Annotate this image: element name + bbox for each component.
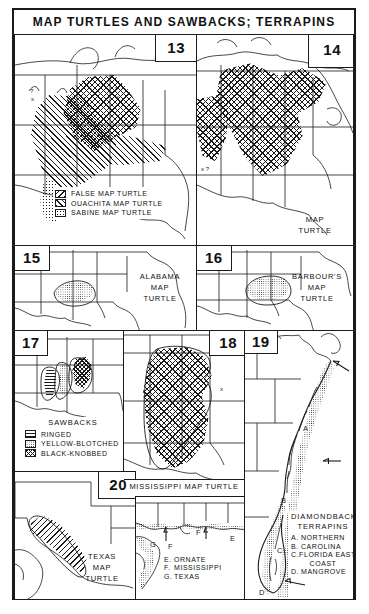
panel-13[interactable]: x x ? ? 13 FALSE MAP TURTLE OUACHITA MAP… xyxy=(14,34,197,246)
svg-text:x: x xyxy=(31,96,34,102)
panel-17[interactable]: 17 SAWBACKS RINGED YELLOW-BLOTCHED BLACK… xyxy=(14,330,124,472)
panel-19[interactable]: A B C D 19 DIAMONDBACK TERRAPINS A. NORT… xyxy=(244,330,354,600)
caption-line: MAP xyxy=(287,215,343,226)
panel-15-number: 15 xyxy=(23,249,41,266)
swatch-ouachita-map-turtle xyxy=(55,199,66,207)
caption-line: TEXAS xyxy=(75,552,129,563)
legend-key: G. xyxy=(164,573,174,580)
legend-label: COAST xyxy=(310,560,337,567)
swatch-sabine-map-turtle xyxy=(55,209,66,217)
marker-e: E xyxy=(230,534,235,543)
legend-key: D. xyxy=(291,568,301,575)
legend-item: G. TEXAS xyxy=(164,573,240,580)
gulf-coast-legend: E. ORNATE F. MISSISSIPPI G. TEXAS xyxy=(162,553,242,582)
svg-text:?: ? xyxy=(30,88,34,94)
legend-key: E. xyxy=(164,556,174,563)
panel-20[interactable]: 20 TEXAS MAP TURTLE xyxy=(14,471,136,600)
panel-17-number: 17 xyxy=(22,334,40,351)
swatch-false-map-turtle xyxy=(55,190,66,198)
legend-label: SABINE MAP TURTLE xyxy=(71,209,152,216)
legend-item: BLACK-KNOBBED xyxy=(25,449,121,457)
caption-line: TURTLE xyxy=(285,294,349,305)
marker-c: C xyxy=(277,546,283,555)
legend-item: C. FLORIDA EAST xyxy=(291,551,354,558)
legend-label: MANGROVE xyxy=(301,568,346,575)
plate-title-bar: MAP TURTLES AND SAWBACKS; TERRAPINS xyxy=(14,10,354,36)
swatch-ringed xyxy=(25,430,36,438)
caption-line: MAP xyxy=(75,563,129,574)
caption-line: MAP xyxy=(130,283,190,294)
marker-g: G xyxy=(150,540,156,549)
caption-line: BARBOUR'S xyxy=(285,272,349,283)
legend-heading-line: DIAMONDBACK xyxy=(291,512,354,521)
legend-item: YELLOW-BLOTCHED xyxy=(25,440,121,448)
legend-label: ORNATE xyxy=(174,556,206,563)
legend-label: TEXAS xyxy=(174,573,200,580)
panel-16[interactable]: 16 BARBOUR'S MAP TURTLE xyxy=(196,245,354,331)
legend-item: E. ORNATE xyxy=(164,556,240,563)
swatch-yellow-blotched xyxy=(25,440,36,448)
legend-item: D. MANGROVE xyxy=(291,568,354,575)
marker-b: B xyxy=(281,496,286,505)
legend-item: OUACHITA MAP TURTLE xyxy=(55,199,163,207)
gulf-coast-map: G F F E xyxy=(136,497,245,600)
caption-line: TURTLE xyxy=(130,294,190,305)
plate-frame: MAP TURTLES AND SAWBACKS; TERRAPINS xyxy=(12,8,356,600)
caption-line: ALABAMA xyxy=(130,272,190,283)
legend-label: FLORIDA EAST xyxy=(299,551,354,558)
panel-19-number: 19 xyxy=(252,333,270,350)
legend-heading: SAWBACKS xyxy=(25,418,121,427)
legend-label: YELLOW-BLOTCHED xyxy=(41,440,119,447)
legend-item: F. MISSISSIPPI xyxy=(164,564,240,571)
caption-line: MAP xyxy=(285,283,349,294)
panel-15-caption: ALABAMA MAP TURTLE xyxy=(130,272,190,305)
panel-13-number: 13 xyxy=(167,39,185,56)
panel-18-number: 18 xyxy=(219,334,237,351)
marker-a: A xyxy=(303,424,308,433)
panel-17-legend: SAWBACKS RINGED YELLOW-BLOTCHED BLACK-KN… xyxy=(23,417,123,460)
panel-gulf-coast-terrapins[interactable]: G F F E E. ORNATE F. MISSISSIPPI G. TEXA… xyxy=(135,496,245,600)
legend-key: C. xyxy=(291,551,299,558)
panel-16-caption: BARBOUR'S MAP TURTLE xyxy=(285,272,349,305)
page-title: MAP TURTLES AND SAWBACKS; TERRAPINS xyxy=(33,15,336,29)
legend-item: B. CAROLINA xyxy=(291,543,354,550)
legend-label: MISSISSIPPI xyxy=(174,564,222,571)
caption-line: TURTLE xyxy=(75,574,129,585)
panel-15[interactable]: 15 ALABAMA MAP TURTLE xyxy=(14,245,197,331)
panel-14-caption: MAP TURTLE xyxy=(287,215,343,237)
panel-18-caption: MISSISSIPPI MAP TURTLE xyxy=(124,482,244,493)
legend-label: OUACHITA MAP TURTLE xyxy=(71,200,163,207)
panel-14-number: 14 xyxy=(323,41,341,58)
panel-14[interactable]: x ? 14 MAP TURTLE xyxy=(196,34,354,246)
panel-20-number: 20 xyxy=(109,476,127,493)
svg-text:x: x xyxy=(116,94,119,100)
panel-13-legend: FALSE MAP TURTLE OUACHITA MAP TURTLE SAB… xyxy=(53,187,165,219)
caption-line: TURTLE xyxy=(287,226,343,237)
legend-item: SABINE MAP TURTLE xyxy=(55,209,163,217)
legend-item: A. NORTHERN xyxy=(291,534,354,541)
marker-d: D xyxy=(259,588,265,597)
legend-key: B. xyxy=(291,543,301,550)
legend-item: RINGED xyxy=(25,430,121,438)
legend-item: FALSE MAP TURTLE xyxy=(55,190,163,198)
legend-label: CAROLINA xyxy=(301,543,341,550)
legend-heading-line: TERRAPINS xyxy=(291,522,354,531)
swatch-black-knobbed xyxy=(25,449,36,457)
marker-f-1: F xyxy=(168,542,173,551)
legend-item: COAST xyxy=(291,560,354,567)
svg-text:x: x xyxy=(220,386,223,392)
marker-f-2: F xyxy=(196,528,201,537)
legend-label: RINGED xyxy=(41,431,72,438)
panel-19-legend: DIAMONDBACK TERRAPINS A. NORTHERN B. CAR… xyxy=(289,511,354,578)
panel-18[interactable]: x 18 MISSISSIPPI MAP TURTLE xyxy=(123,330,245,497)
legend-key: A. xyxy=(291,534,301,541)
svg-text:x ?: x ? xyxy=(201,166,210,172)
legend-label: FALSE MAP TURTLE xyxy=(71,190,148,197)
panel-20-caption: TEXAS MAP TURTLE xyxy=(75,552,129,585)
legend-label: BLACK-KNOBBED xyxy=(41,450,108,457)
legend-key: F. xyxy=(164,564,174,571)
legend-label: NORTHERN xyxy=(301,534,345,541)
panel-16-number: 16 xyxy=(205,249,223,266)
